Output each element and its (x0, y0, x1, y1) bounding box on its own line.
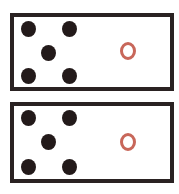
black-dot (62, 159, 77, 175)
bottom-panel (10, 102, 174, 183)
red-ring (120, 42, 136, 60)
top-panel (10, 13, 174, 91)
black-dot (62, 68, 77, 84)
black-dot (62, 21, 77, 37)
black-dot (21, 159, 36, 175)
black-dot (21, 68, 36, 84)
black-dot (21, 21, 36, 37)
black-dot (41, 134, 56, 150)
black-dot (21, 110, 36, 126)
black-dot (41, 45, 56, 61)
black-dot (62, 110, 77, 126)
red-ring (120, 133, 136, 151)
